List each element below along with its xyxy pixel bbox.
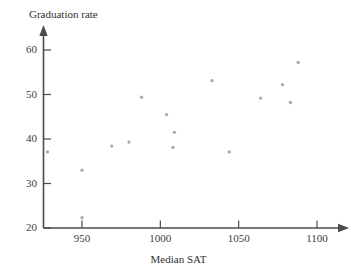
x-axis-arrow-icon bbox=[338, 224, 349, 232]
x-tick-label: 950 bbox=[62, 233, 102, 244]
data-point bbox=[210, 79, 213, 82]
data-point bbox=[140, 96, 143, 99]
data-point bbox=[297, 61, 300, 64]
x-tick-label: 1000 bbox=[140, 233, 180, 244]
x-tick-label: 1100 bbox=[297, 233, 337, 244]
data-point bbox=[228, 150, 231, 153]
data-point bbox=[173, 131, 176, 134]
x-axis-title: Median SAT bbox=[0, 254, 357, 265]
axis-tick-marks bbox=[44, 50, 318, 228]
data-point bbox=[171, 146, 174, 149]
y-tick-label: 60 bbox=[11, 44, 37, 55]
y-tick-label: 30 bbox=[11, 178, 37, 189]
y-axis-title: Graduation rate bbox=[29, 9, 98, 20]
y-tick-label: 40 bbox=[11, 133, 37, 144]
y-tick-label: 50 bbox=[11, 89, 37, 100]
data-points-group bbox=[46, 61, 300, 220]
scatter-plot-figure: 2030405060 950100010501100 Graduation ra… bbox=[0, 0, 357, 277]
data-point bbox=[281, 83, 284, 86]
data-point bbox=[46, 150, 49, 153]
data-point bbox=[165, 113, 168, 116]
data-point bbox=[110, 144, 113, 147]
data-point bbox=[259, 96, 262, 99]
data-point bbox=[289, 101, 292, 104]
data-point bbox=[127, 140, 130, 143]
y-axis-arrow-icon bbox=[39, 25, 47, 36]
data-point bbox=[80, 216, 83, 219]
y-tick-label: 20 bbox=[11, 222, 37, 233]
x-tick-label: 1050 bbox=[219, 233, 259, 244]
data-point bbox=[80, 169, 83, 172]
